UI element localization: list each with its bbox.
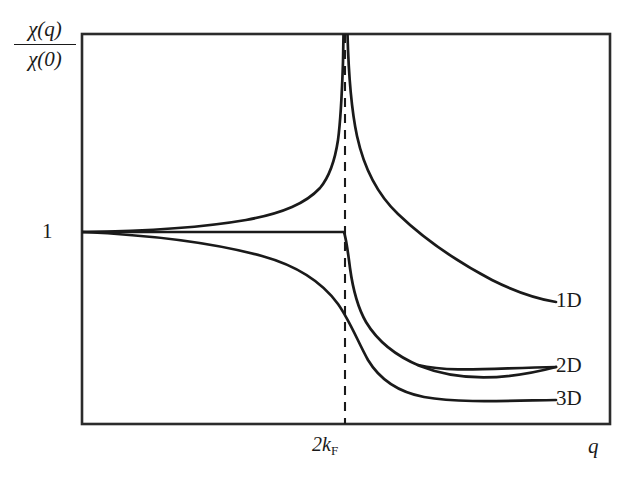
y-axis-label-numerator: χ(q) [14, 18, 76, 43]
x-tick-subscript: F [331, 443, 338, 458]
y-tick-label-1: 1 [42, 219, 53, 244]
y-axis-label: χ(q) χ(0) [14, 18, 76, 71]
x-axis-label: q [588, 434, 599, 459]
curve-label-1d: 1D [556, 288, 582, 313]
curve-label-2d: 2D [556, 353, 582, 378]
susceptibility-figure: χ(q) χ(0) 1 2kF q 1D 2D 3D [0, 0, 639, 481]
curve-label-3d: 3D [556, 386, 582, 411]
x-tick-base: 2k [312, 433, 331, 455]
x-tick-label-2kf: 2kF [312, 433, 338, 456]
plot-canvas [0, 0, 639, 481]
y-axis-label-denominator: χ(0) [14, 47, 76, 72]
fraction-bar [14, 44, 76, 45]
